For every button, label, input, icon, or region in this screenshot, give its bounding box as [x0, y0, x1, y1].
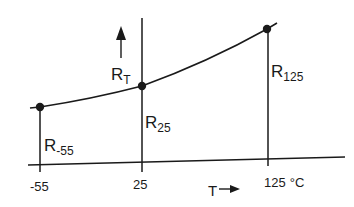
resistance-curve [30, 23, 277, 108]
r25-label: R25 [145, 113, 171, 135]
point-r125 [263, 25, 271, 33]
t-axis-label: T [208, 182, 217, 199]
rt-label: RT [111, 65, 131, 87]
point-r25 [138, 82, 146, 90]
temperature-axis [28, 157, 345, 165]
r-minus55-label: R-55 [44, 136, 74, 158]
point-r-minus55 [36, 103, 44, 111]
up-arrowhead-icon [116, 26, 126, 40]
r125-label: R125 [271, 62, 304, 84]
tick-125: 125°C [264, 175, 304, 190]
tick-25: 25 [133, 177, 147, 192]
tick-minus55: -55 [30, 179, 49, 194]
right-arrowhead-icon [230, 185, 240, 193]
resistance-temperature-diagram: RT R-55 R25 R125 -55 25 125°C T [0, 0, 354, 207]
